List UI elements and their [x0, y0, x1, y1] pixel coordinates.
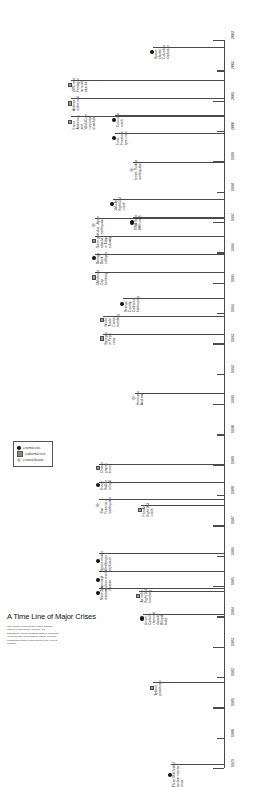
- year-label-1990: 1990: [231, 425, 235, 433]
- year-label-1979: 1979: [231, 759, 235, 767]
- page-description: The number of accidental crises, whether…: [7, 625, 59, 645]
- axis-tick-1982: [217, 677, 224, 678]
- event-connector-line: [71, 98, 224, 99]
- axis-tick-2002: [217, 70, 224, 71]
- event-connector-line: [71, 80, 224, 81]
- event-connector-line: [95, 254, 224, 255]
- legend-item-label: = abnormal crisis: [25, 453, 45, 456]
- legend-item-natural: = natural disaster: [17, 457, 49, 463]
- event-connector-line: [99, 482, 224, 483]
- year-label-1984: 1984: [231, 607, 235, 615]
- axis-tick-1992: [217, 374, 224, 375]
- year-label-1999: 1999: [231, 152, 235, 160]
- axis-tick-1985: [213, 586, 224, 587]
- year-label-1987: 1987: [231, 516, 235, 524]
- timeline-event[interactable]: Three Mile Island nuclear reactor crisis: [168, 762, 185, 787]
- axis-tick-1983: [213, 647, 224, 648]
- legend-item-label: = normal crisis: [23, 447, 40, 450]
- event-connector-line: [143, 614, 224, 615]
- event-connector-line: [71, 116, 224, 117]
- axis-tick-1986: [217, 556, 224, 557]
- abnormal-marker-icon: [17, 451, 23, 457]
- event-label: Three Mile Island nuclear reactor crisis: [173, 762, 185, 787]
- event-connector-line: [99, 464, 224, 465]
- year-label-1997: 1997: [231, 213, 235, 221]
- year-label-1982: 1982: [231, 668, 235, 676]
- year-label-1998: 1998: [231, 183, 235, 191]
- year-label-1995: 1995: [231, 274, 235, 282]
- axis-tick-1994: [217, 313, 224, 314]
- axis-tick-1984: [217, 616, 224, 617]
- axis-tick-1998: [217, 192, 224, 193]
- year-label-1996: 1996: [231, 243, 235, 251]
- event-connector-line: [115, 133, 224, 134]
- axis-tick-1980: [217, 738, 224, 739]
- event-connector-line: [141, 505, 224, 506]
- natural-marker-icon: [17, 458, 21, 462]
- axis-tick-2001: [213, 101, 224, 102]
- year-label-1986: 1986: [231, 547, 235, 555]
- event-connector-line: [133, 162, 224, 163]
- event-connector-line: [153, 682, 224, 683]
- year-label-2003: 2003: [231, 31, 235, 39]
- event-connector-line: [103, 334, 224, 335]
- year-label-1983: 1983: [231, 638, 235, 646]
- event-connector-line: [171, 764, 224, 765]
- axis-tick-1995: [213, 283, 224, 284]
- event-connector-line: [123, 298, 224, 299]
- timeline-axis: [224, 40, 225, 768]
- event-connector-line: [95, 272, 224, 273]
- axis-tick-1990: [217, 434, 224, 435]
- event-connector-line: [99, 588, 224, 589]
- event-connector-line: [99, 553, 224, 554]
- year-label-1994: 1994: [231, 304, 235, 312]
- year-label-1988: 1988: [231, 486, 235, 494]
- year-label-2002: 2002: [231, 61, 235, 69]
- normal-marker-icon: [140, 616, 144, 620]
- axis-tick-1991: [213, 404, 224, 405]
- year-label-1992: 1992: [231, 365, 235, 373]
- abnormal-marker-icon: [68, 120, 72, 124]
- normal-marker-icon: [17, 446, 21, 450]
- event-connector-line: [139, 591, 224, 592]
- event-connector-line: [113, 199, 224, 200]
- axis-tick-2000: [217, 131, 224, 132]
- axis-tick-1979: [213, 768, 224, 769]
- year-label-1985: 1985: [231, 577, 235, 585]
- legend-item-label: = natural disaster: [23, 459, 44, 462]
- year-label-2000: 2000: [231, 122, 235, 130]
- axis-tick-1993: [213, 343, 224, 344]
- year-label-1993: 1993: [231, 334, 235, 342]
- axis-tick-2003: [213, 40, 224, 41]
- axis-tick-1988: [217, 495, 224, 496]
- year-label-1991: 1991: [231, 395, 235, 403]
- year-label-2001: 2001: [231, 92, 235, 100]
- axis-tick-1987: [213, 525, 224, 526]
- event-connector-line: [153, 47, 224, 48]
- year-label-1981: 1981: [231, 698, 235, 706]
- event-connector-line: [133, 217, 224, 218]
- page-title: A Time Line of Major Crises: [7, 612, 59, 621]
- event-connector-line: [99, 571, 224, 572]
- year-label-1980: 1980: [231, 729, 235, 737]
- event-connector-line: [135, 393, 224, 394]
- legend: = normal crisis= abnormal crisis= natura…: [13, 441, 53, 467]
- event-connector-line: [103, 316, 224, 317]
- title-block: A Time Line of Major Crises The number o…: [7, 612, 59, 645]
- event-connector-line: [99, 499, 224, 500]
- axis-tick-1997: [213, 222, 224, 223]
- year-label-1989: 1989: [231, 456, 235, 464]
- event-connector-line: [95, 236, 224, 237]
- axis-tick-1981: [213, 707, 224, 708]
